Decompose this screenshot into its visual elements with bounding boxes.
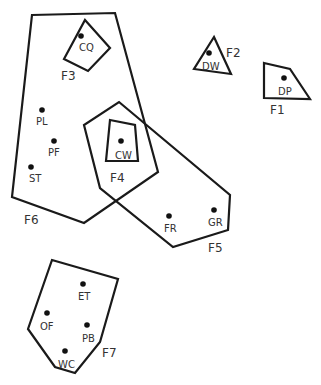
point-dp-marker xyxy=(281,75,287,81)
cluster-f6-label: F6 xyxy=(24,213,39,227)
point-pf-marker xyxy=(51,138,57,144)
point-dw-marker xyxy=(206,50,212,56)
point-pb-marker xyxy=(84,322,90,328)
point-pl-marker xyxy=(39,107,45,113)
point-st-marker xyxy=(28,164,34,170)
point-et-marker xyxy=(80,281,86,287)
cluster-f4-label: F4 xyxy=(110,171,125,185)
point-pb-label: PB xyxy=(82,333,95,344)
point-cq-marker xyxy=(78,33,84,39)
point-et-label: ET xyxy=(78,291,91,302)
cluster-f1-label: F1 xyxy=(270,103,285,117)
point-gr-marker xyxy=(211,207,217,213)
cluster-f3-label: F3 xyxy=(61,69,76,83)
point-of-marker xyxy=(44,310,50,316)
point-dp-label: DP xyxy=(278,86,292,97)
cluster-f7-label: F7 xyxy=(102,346,117,360)
point-cw-marker xyxy=(118,138,124,144)
point-cw-label: CW xyxy=(115,150,132,161)
point-wc-label: WC xyxy=(58,359,75,370)
cluster-f2-label: F2 xyxy=(226,46,241,60)
point-pf-label: PF xyxy=(48,147,60,158)
point-of-label: OF xyxy=(40,321,54,332)
cluster-f5-label: F5 xyxy=(208,241,223,255)
point-wc-marker xyxy=(62,348,68,354)
point-dw-label: DW xyxy=(202,61,220,72)
point-st-label: ST xyxy=(29,173,42,184)
cluster-diagram: CQ DW DP PL PF ST CW FR GR ET OF PB WC F… xyxy=(0,0,321,385)
point-gr-label: GR xyxy=(208,217,223,228)
point-pl-label: PL xyxy=(36,116,48,127)
point-fr-marker xyxy=(166,213,172,219)
point-fr-label: FR xyxy=(164,223,177,234)
point-cq-label: CQ xyxy=(79,42,94,53)
